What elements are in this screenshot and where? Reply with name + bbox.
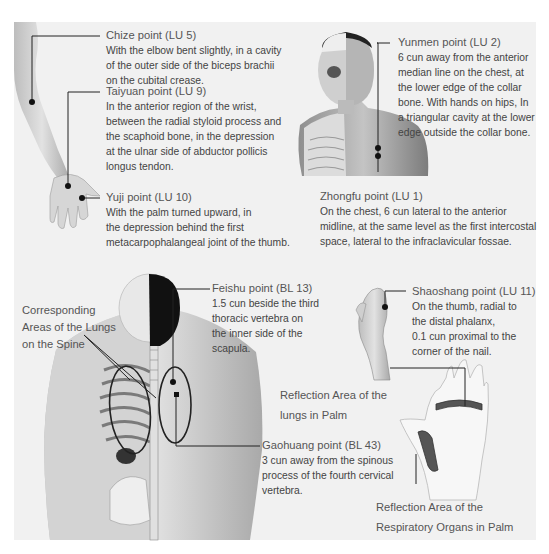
palm-lungs-line-2: lungs in Palm: [280, 405, 387, 425]
yuji-desc-2: the depression behind the first: [106, 220, 290, 235]
feishu-annotation: Feishu point (BL 13) 1.5 cun beside the …: [212, 281, 319, 356]
taiyuan-desc-2: between the radial styloid process and: [106, 114, 281, 129]
gaohuang-desc-1: 3 cun away from the spinous: [262, 453, 394, 468]
chize-desc-2: of the outer side of the biceps brachii: [106, 58, 282, 73]
spine-lungs-line-3: on the Spine: [22, 336, 116, 353]
zhongfu-desc-2: midline, at the same level as the first …: [320, 219, 536, 234]
taiyuan-desc-5: longus tendon.: [106, 159, 281, 174]
feishu-title: Feishu point (BL 13): [212, 281, 319, 296]
feishu-desc-1: 1.5 cun beside the third: [212, 296, 319, 311]
shaoshang-desc-1: On the thumb, radial to: [412, 299, 536, 314]
palm-lungs-label: Reflection Area of the lungs in Palm: [280, 385, 387, 425]
shaoshang-desc-3: 0.1 cun proximal to the: [412, 329, 536, 344]
shaoshang-title: Shaoshang point (LU 11): [412, 284, 536, 299]
yuji-desc-3: metacarpophalangeal joint of the thumb.: [106, 235, 290, 250]
taiyuan-title: Taiyuan point (LU 9): [106, 84, 281, 99]
gaohuang-desc-2: process of the fourth cervical: [262, 468, 394, 483]
zhongfu-desc-3: space, lateral to the infraclavicular fo…: [320, 234, 536, 249]
taiyuan-desc-1: In the anterior region of the wrist,: [106, 99, 281, 114]
gaohuang-annotation: Gaohuang point (BL 43) 3 cun away from t…: [262, 438, 394, 498]
yuji-desc-1: With the palm turned upward, in: [106, 205, 290, 220]
spine-lungs-line-2: Areas of the Lungs: [22, 319, 116, 336]
zhongfu-desc-1: On the chest, 6 cun lateral to the anter…: [320, 204, 536, 219]
yunmen-desc-1: 6 cun away from the anterior: [398, 50, 535, 65]
yunmen-desc-3: the lower edge of the collar: [398, 80, 535, 95]
spine-lungs-label: Corresponding Areas of the Lungs on the …: [22, 302, 116, 353]
shaoshang-desc-2: the distal phalanx,: [412, 314, 536, 329]
palm-respiratory-line-2: Respiratory Organs in Palm: [376, 517, 513, 537]
palm-respiratory-line-1: Reflection Area of the: [376, 497, 513, 517]
feishu-desc-2: thoracic vertebra on: [212, 311, 319, 326]
palm-respiratory-label: Reflection Area of the Respiratory Organ…: [376, 497, 513, 537]
feishu-desc-3: the inner side of the: [212, 326, 319, 341]
gaohuang-title: Gaohuang point (BL 43): [262, 438, 394, 453]
gaohuang-desc-3: vertebra.: [262, 483, 394, 498]
palm-illustration: [400, 360, 488, 500]
taiyuan-annotation: Taiyuan point (LU 9) In the anterior reg…: [106, 84, 281, 174]
zhongfu-annotation: Zhongfu point (LU 1) On the chest, 6 cun…: [320, 189, 536, 249]
chize-title: Chize point (LU 5): [106, 28, 282, 43]
yuji-title: Yuji point (LU 10): [106, 190, 290, 205]
yunmen-desc-4: bone. With hands on hips, In: [398, 95, 535, 110]
chize-annotation: Chize point (LU 5) With the elbow bent s…: [106, 28, 282, 88]
taiyuan-desc-4: at the ulnar side of abductor pollicis: [106, 144, 281, 159]
shaoshang-desc-4: corner of the nail.: [412, 344, 536, 359]
feishu-desc-4: scapula.: [212, 341, 319, 356]
yuji-annotation: Yuji point (LU 10) With the palm turned …: [106, 190, 290, 250]
taiyuan-desc-3: the scaphoid bone, in the depression: [106, 129, 281, 144]
spine-lungs-line-1: Corresponding: [22, 302, 116, 319]
yunmen-title: Yunmen point (LU 2): [398, 35, 535, 50]
chize-desc-1: With the elbow bent slightly, in a cavit…: [106, 43, 282, 58]
zhongfu-title: Zhongfu point (LU 1): [320, 189, 536, 204]
yunmen-desc-2: median line on the chest, at: [398, 65, 535, 80]
yunmen-desc-5: a triangular cavity at the lower: [398, 110, 535, 125]
palm-lungs-line-1: Reflection Area of the: [280, 385, 387, 405]
shaoshang-annotation: Shaoshang point (LU 11) On the thumb, ra…: [412, 284, 536, 359]
yunmen-annotation: Yunmen point (LU 2) 6 cun away from the …: [398, 35, 535, 140]
yunmen-desc-6: edge outside the collar bone.: [398, 125, 535, 140]
